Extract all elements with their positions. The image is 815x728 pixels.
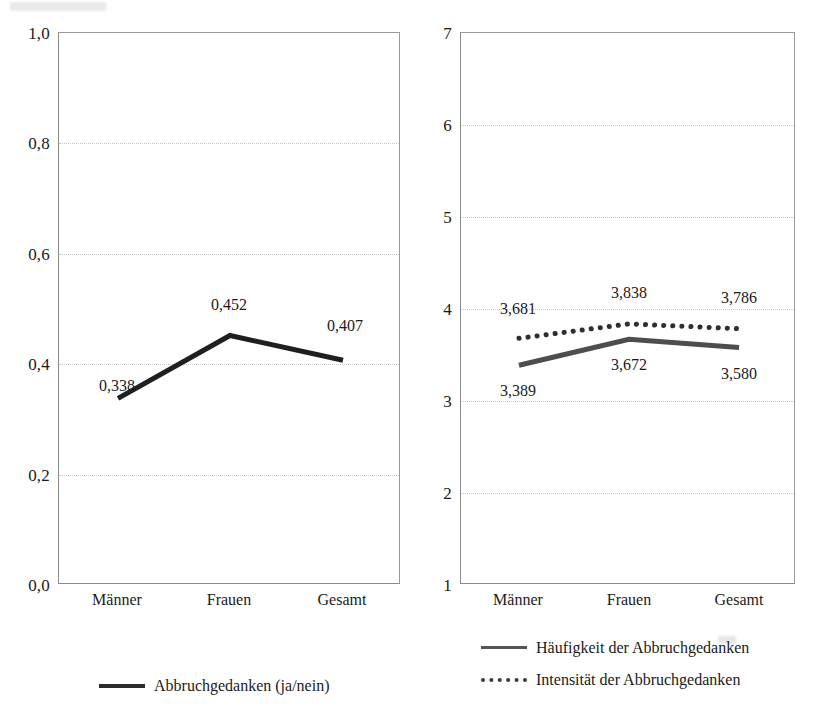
left-legend-item-abbruchgedanken[interactable]: Abbruchgedanken (ja/nein) xyxy=(99,678,329,694)
left-legend: Abbruchgedanken (ja/nein) xyxy=(99,678,329,710)
right-series-intensitaet-line xyxy=(519,324,739,338)
left-ytick-0-6: 0,6 xyxy=(6,246,50,263)
right-xtick-frauen: Frauen xyxy=(583,592,675,608)
left-datalabel-maenner: 0,338 xyxy=(72,378,162,394)
right-legend-item-haeufigkeit[interactable]: Häufigkeit der Abbruchgedanken xyxy=(481,640,749,656)
right-legend-label-haeufigkeit: Häufigkeit der Abbruchgedanken xyxy=(536,640,749,656)
left-ytick-0-0: 0,0 xyxy=(6,577,50,594)
left-legend-label-abbruchgedanken: Abbruchgedanken (ja/nein) xyxy=(154,678,329,694)
legend-line-swatch-solid-icon xyxy=(481,641,527,655)
right-ytick-2: 2 xyxy=(418,485,452,502)
legend-line-swatch-solid-icon xyxy=(99,679,145,693)
right-ytick-7: 7 xyxy=(418,25,452,42)
right-datalabel-haeufigkeit-gesamt: 3,580 xyxy=(693,366,785,382)
left-ytick-0-8: 0,8 xyxy=(6,135,50,152)
right-datalabel-intensitaet-frauen: 3,838 xyxy=(583,285,675,301)
right-xtick-maenner: Männer xyxy=(472,592,564,608)
left-xtick-gesamt: Gesamt xyxy=(297,592,387,608)
chart-haeufigkeit-intensitaet: 7 6 5 4 3 2 1 3,681 3,838 3,786 3,389 xyxy=(410,0,815,728)
right-ytick-1: 1 xyxy=(418,577,452,594)
chart-abbruchgedanken-ja-nein: 1,0 0,8 0,6 0,4 0,2 0,0 0,338 0,452 0,40… xyxy=(0,0,410,728)
right-ytick-5: 5 xyxy=(418,209,452,226)
left-datalabel-gesamt: 0,407 xyxy=(300,318,390,334)
left-datalabel-frauen: 0,452 xyxy=(184,297,274,313)
left-ytick-1-0: 1,0 xyxy=(6,25,50,42)
right-xtick-gesamt: Gesamt xyxy=(693,592,785,608)
left-ytick-0-4: 0,4 xyxy=(6,356,50,373)
right-datalabel-intensitaet-maenner: 3,681 xyxy=(472,301,564,317)
right-legend: Häufigkeit der Abbruchgedanken Intensitä… xyxy=(481,640,749,704)
left-xtick-maenner: Männer xyxy=(72,592,162,608)
right-ytick-4: 4 xyxy=(418,301,452,318)
right-datalabel-intensitaet-gesamt: 3,786 xyxy=(693,290,785,306)
left-ytick-0-2: 0,2 xyxy=(6,467,50,484)
legend-line-swatch-dotted-icon xyxy=(481,673,527,687)
right-ytick-6: 6 xyxy=(418,117,452,134)
left-xtick-frauen: Frauen xyxy=(184,592,274,608)
right-legend-item-intensitaet[interactable]: Intensität der Abbruchgedanken xyxy=(481,672,749,688)
right-datalabel-haeufigkeit-frauen: 3,672 xyxy=(583,357,675,373)
right-datalabel-haeufigkeit-maenner: 3,389 xyxy=(472,383,564,399)
right-ytick-3: 3 xyxy=(418,393,452,410)
right-legend-label-intensitaet: Intensität der Abbruchgedanken xyxy=(536,672,740,688)
